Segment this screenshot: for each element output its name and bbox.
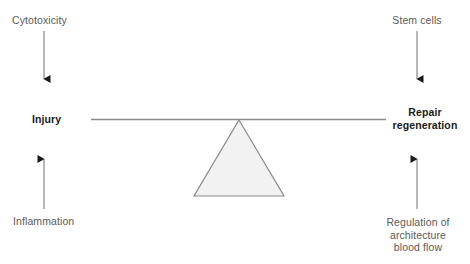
label-inflammation: Inflammation [13, 215, 74, 228]
label-cytotoxicity: Cytotoxicity [12, 14, 67, 27]
label-regulation-line2: architecture [375, 229, 461, 242]
fulcrum-triangle [194, 120, 284, 196]
label-repair-regeneration: Repair regeneration [382, 106, 468, 131]
balance-diagram: Cytotoxicity Injury Inflammation Stem ce… [0, 0, 470, 264]
label-regulation-line3: blood flow [375, 241, 461, 254]
label-stem-cells: Stem cells [392, 14, 441, 27]
label-injury: Injury [32, 113, 61, 126]
label-repair-line2: regeneration [382, 119, 468, 132]
label-regulation-line1: Regulation of [375, 216, 461, 229]
label-regulation-architecture-blood-flow: Regulation of architecture blood flow [375, 216, 461, 254]
label-repair-line1: Repair [382, 106, 468, 119]
